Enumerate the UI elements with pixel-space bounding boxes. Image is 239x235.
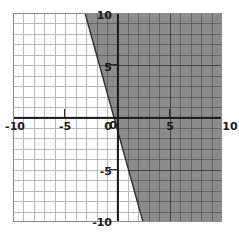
- y-axis-label-pos5: 5: [96, 62, 112, 73]
- x-tick-neg5: [64, 109, 65, 118]
- clipped-title-strip: [0, 0, 239, 7]
- x-axis-label-pos10: 10: [222, 121, 237, 132]
- y-axis-label-pos10: 10: [96, 10, 112, 21]
- plot-area: [13, 13, 222, 222]
- x-tick-pos5: [169, 109, 170, 118]
- y-axis-label-neg10: -10: [92, 217, 112, 228]
- y-axis-label-zero: 0: [96, 121, 112, 132]
- graph-figure: -10 -5 0 5 10 10 5 0 -5 -10: [0, 0, 239, 235]
- x-axis-label-neg5: -5: [59, 121, 71, 132]
- y-axis-label-neg5: -5: [96, 166, 112, 177]
- x-axis-label-pos5: 5: [166, 121, 174, 132]
- y-axis: [116, 13, 118, 222]
- x-axis-label-neg10: -10: [5, 121, 25, 132]
- x-tick-pos10: [221, 109, 222, 118]
